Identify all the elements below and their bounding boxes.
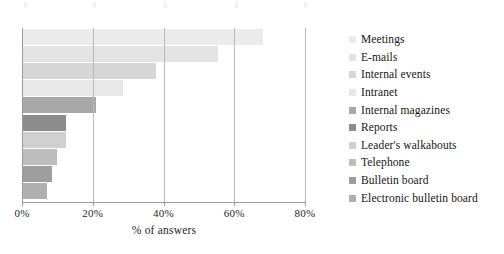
legend-item: E-mails <box>349 49 501 67</box>
bar-internal-magazines <box>22 97 96 113</box>
bar-electronic-bulletin-board <box>22 183 47 199</box>
legend-item: Meetings <box>349 31 501 49</box>
legend-swatch-icon <box>349 71 356 78</box>
legend-swatch-icon <box>349 36 356 43</box>
gridline <box>305 28 306 202</box>
x-tick-label: 60% <box>224 207 245 220</box>
legend-label: Intranet <box>361 86 398 99</box>
scan-artifact <box>235 2 238 8</box>
legend-label: Leader's walkabouts <box>361 139 457 152</box>
bar-e-mails <box>22 46 218 62</box>
scan-artifact <box>93 2 96 8</box>
legend-swatch-icon <box>349 177 356 184</box>
legend-item: Intranet <box>349 84 501 102</box>
legend-label: Reports <box>361 121 397 134</box>
tick-mark <box>22 202 23 206</box>
legend-item: Bulletin board <box>349 172 501 190</box>
y-axis-line <box>22 28 23 203</box>
legend-item: Internal events <box>349 66 501 84</box>
bar-reports <box>22 115 66 131</box>
legend-item: Electronic bulletin board <box>349 189 501 207</box>
legend-label: Meetings <box>361 33 405 46</box>
bar-meetings <box>22 29 263 45</box>
legend-label: Internal magazines <box>361 104 450 117</box>
legend-swatch-icon <box>349 124 356 131</box>
x-tick-label: 20% <box>82 207 103 220</box>
legend-item: Leader's walkabouts <box>349 137 501 155</box>
legend-swatch-icon <box>349 107 356 114</box>
tick-mark <box>93 202 94 206</box>
legend-label: Internal events <box>361 68 431 81</box>
tick-mark <box>305 202 306 206</box>
legend-swatch-icon <box>349 89 356 96</box>
bar-telephone <box>22 149 57 165</box>
legend-swatch-icon <box>349 54 356 61</box>
bar-internal-events <box>22 63 156 79</box>
legend-label: Bulletin board <box>361 174 429 187</box>
scan-artifact <box>24 2 27 8</box>
legend-label: E-mails <box>361 51 397 64</box>
gridline <box>234 28 235 202</box>
scan-artifact <box>304 2 307 8</box>
legend-swatch-icon <box>349 195 356 202</box>
x-tick-label: 0% <box>14 207 29 220</box>
legend-swatch-icon <box>349 159 356 166</box>
x-axis-title: % of answers <box>22 224 306 236</box>
gridline <box>93 28 94 202</box>
x-tick-label: 80% <box>295 207 316 220</box>
bar-chart-figure: 0%20%40%60%80% % of answers MeetingsE-ma… <box>0 0 504 254</box>
x-tick-label: 40% <box>153 207 174 220</box>
bar-intranet <box>22 80 123 96</box>
legend-item: Internal magazines <box>349 101 501 119</box>
scan-artifact <box>164 2 167 8</box>
legend-swatch-icon <box>349 142 356 149</box>
legend-item: Reports <box>349 119 501 137</box>
legend-label: Telephone <box>361 156 410 169</box>
gridline <box>164 28 165 202</box>
chart-legend: MeetingsE-mailsInternal eventsIntranetIn… <box>349 31 501 207</box>
legend-item: Telephone <box>349 154 501 172</box>
bar-bulletin-board <box>22 166 52 182</box>
legend-label: Electronic bulletin board <box>361 192 478 205</box>
tick-mark <box>234 202 235 206</box>
tick-mark <box>164 202 165 206</box>
bar-leader-s-walkabouts <box>22 132 66 148</box>
